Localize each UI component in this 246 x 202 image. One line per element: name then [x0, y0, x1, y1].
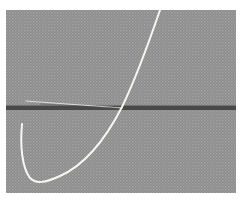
photo: [0, 0, 246, 202]
